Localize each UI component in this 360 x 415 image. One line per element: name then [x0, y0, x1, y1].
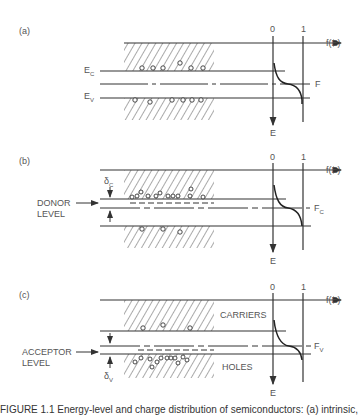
carriers-label: CARRIERS	[220, 311, 267, 320]
conduction-band-hatch	[124, 43, 214, 71]
valence-band-hatch	[124, 226, 214, 248]
ec-label: EC	[84, 66, 94, 75]
donor-level-label-line1: DONOR	[37, 199, 71, 208]
delta-v-label: δV	[104, 372, 113, 381]
one-tick-label: 1	[301, 283, 306, 292]
one-tick-label: 1	[301, 25, 306, 34]
fermi-label: FV	[314, 342, 324, 351]
ev-label: EV	[84, 92, 94, 101]
delta-c-label: δC	[104, 177, 113, 186]
fermi-dirac-curve	[274, 185, 302, 226]
acceptor-level-label-line2: LEVEL	[22, 359, 50, 368]
zero-tick-label: 0	[270, 25, 275, 34]
one-tick-label: 1	[301, 153, 306, 162]
holes-label: HOLES	[222, 363, 253, 372]
panel-c-label: (c)	[19, 291, 30, 300]
fermi-label: FC	[314, 204, 324, 213]
f-axis-label: f(E)	[326, 166, 341, 175]
figure-caption: FIGURE 1.1 Energy-level and charge distr…	[0, 405, 360, 415]
conduction-band-hatch	[124, 300, 214, 331]
panel-b-label: (b)	[19, 157, 30, 166]
panel-c-diagram	[76, 293, 341, 384]
acceptor-level-label-line1: ACCEPTOR	[22, 348, 72, 357]
f-axis-label: f(E)	[326, 296, 341, 305]
e-axis-label: E	[270, 389, 276, 398]
donor-level-label-line2: LEVEL	[37, 210, 65, 219]
e-axis-label: E	[270, 257, 276, 266]
e-axis-label: E	[270, 129, 276, 138]
panel-b-diagram	[76, 163, 341, 252]
fermi-label: F	[315, 80, 321, 89]
panel-a-label: (a)	[19, 27, 30, 36]
f-axis-label: f(E)	[326, 39, 341, 48]
zero-tick-label: 0	[270, 153, 275, 162]
zero-tick-label: 0	[270, 283, 275, 292]
panel-a-diagram	[100, 36, 341, 125]
